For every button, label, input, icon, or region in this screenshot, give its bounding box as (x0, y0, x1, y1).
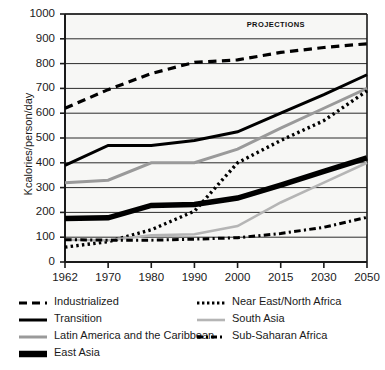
legend-swatch-solid-gray (18, 331, 48, 343)
legend-item[interactable]: Transition (18, 309, 218, 326)
legend-swatch-thick-black (18, 348, 48, 360)
legend-item[interactable]: Latin America and the Caribbean (18, 326, 218, 343)
legend-swatch (196, 312, 226, 324)
legend-swatch (18, 312, 48, 324)
legend-swatch-dotted-black (196, 297, 226, 309)
legend-item[interactable]: Industrialized (18, 292, 218, 309)
chart-container: Kcalories/person/day 0100200300400500600… (0, 0, 385, 370)
legend-swatch (18, 329, 48, 341)
legend-swatch (196, 295, 226, 307)
legend-swatch-dashed-black (18, 297, 48, 309)
projections-annotation: PROJECTIONS (247, 20, 305, 29)
legend-label: East Asia (54, 346, 100, 358)
legend-item[interactable]: Near East/North Africa (196, 292, 385, 309)
legend-swatch-solid-lightgray (196, 314, 226, 326)
legend-column-right: Near East/North AfricaSouth AsiaSub-Saha… (196, 292, 385, 343)
legend-item[interactable]: Sub-Saharan Africa (196, 326, 385, 343)
legend-label: Industrialized (54, 295, 119, 307)
legend-column-left: IndustrializedTransitionLatin America an… (18, 292, 218, 360)
legend-swatch (18, 346, 48, 358)
legend-swatch-dashdot-black (196, 331, 226, 343)
legend-item[interactable]: South Asia (196, 309, 385, 326)
legend-label: South Asia (232, 312, 285, 324)
legend-label: Transition (54, 312, 102, 324)
legend-label: Near East/North Africa (232, 295, 341, 307)
legend-item[interactable]: East Asia (18, 343, 218, 360)
legend-swatch-solid-black (18, 314, 48, 326)
legend-label: Latin America and the Caribbean (54, 329, 214, 341)
legend-label: Sub-Saharan Africa (232, 329, 327, 341)
legend-swatch (18, 295, 48, 307)
legend-swatch (196, 329, 226, 341)
